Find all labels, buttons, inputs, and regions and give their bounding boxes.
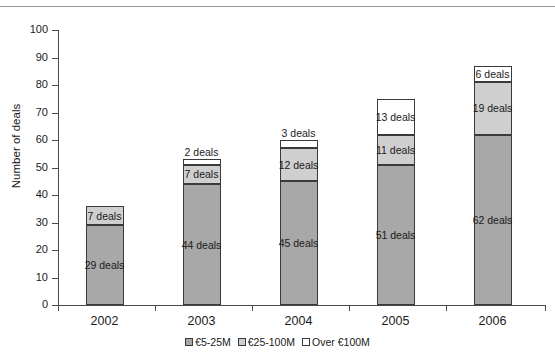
x-axis-tick [155, 305, 156, 311]
y-axis-tick-label: 10 [10, 272, 48, 283]
y-axis-tick-label: 90 [10, 52, 48, 63]
x-axis-tick [349, 305, 350, 311]
bar-segment-label: 29 deals [85, 259, 125, 271]
bar-segment-2005-series3[interactable]: 13 deals [377, 99, 415, 135]
x-axis-category-label-2004: 2004 [259, 314, 339, 328]
bar-segment-2003-series1[interactable]: 44 deals [183, 184, 221, 305]
y-axis-title: Number of deals [10, 86, 22, 206]
bar-segment-label: 12 deals [279, 159, 319, 171]
bar-segment-2004-series1[interactable]: 45 deals [280, 181, 318, 305]
legend-swatch-icon [238, 338, 246, 346]
x-axis-category-label-2002: 2002 [65, 314, 145, 328]
x-axis-tick [252, 305, 253, 311]
x-axis-tick [446, 305, 447, 311]
bar-segment-2004-series3[interactable]: 3 deals [280, 140, 318, 148]
chart-plot-area: 0102030405060708090100 Number of deals 2… [0, 0, 555, 360]
bar-segment-label: 3 deals [282, 127, 316, 139]
chart-legend: €5-25M€25-100MOver €100M [0, 336, 555, 348]
legend-swatch-icon [185, 338, 193, 346]
bar-segment-2006-series1[interactable]: 62 deals [474, 135, 512, 306]
bar-segment-label: 45 deals [279, 237, 319, 249]
y-axis-tick [52, 195, 59, 196]
bar-segment-label: 44 deals [182, 239, 222, 251]
bar-segment-label: 6 deals [476, 68, 510, 80]
bar-2005[interactable]: 51 deals11 deals13 deals [377, 0, 415, 305]
x-axis-category-label-2003: 2003 [162, 314, 242, 328]
bar-segment-2003-series2[interactable]: 7 deals [183, 165, 221, 184]
legend-item-1[interactable]: €5-25M [185, 336, 231, 348]
legend-item-3[interactable]: Over €100M [302, 336, 370, 348]
y-axis-tick [52, 250, 59, 251]
bar-segment-2004-series2[interactable]: 12 deals [280, 148, 318, 181]
x-axis-tick [58, 305, 59, 311]
chart-screenshot: 0102030405060708090100 Number of deals 2… [0, 0, 555, 360]
y-axis-tick-label: 20 [10, 244, 48, 255]
y-axis-tick [52, 113, 59, 114]
bar-segment-2005-series1[interactable]: 51 deals [377, 165, 415, 305]
bar-2006[interactable]: 62 deals19 deals6 deals [474, 0, 512, 305]
legend-label: Over €100M [312, 336, 370, 348]
bar-segment-2002-series1[interactable]: 29 deals [86, 225, 124, 305]
bar-segment-label: 2 deals [185, 146, 219, 158]
y-axis-tick-label: 100 [10, 24, 48, 35]
legend-item-2[interactable]: €25-100M [238, 336, 295, 348]
bar-segment-label: 19 deals [473, 102, 513, 114]
bar-segment-label: 11 deals [376, 144, 415, 156]
x-axis-category-label-2005: 2005 [356, 314, 436, 328]
bar-segment-2006-series2[interactable]: 19 deals [474, 82, 512, 134]
y-axis-tick-label: 30 [10, 217, 48, 228]
bar-segment-2005-series2[interactable]: 11 deals [377, 135, 415, 165]
bar-segment-label: 51 deals [376, 229, 416, 241]
legend-label: €25-100M [248, 336, 295, 348]
x-axis-tick [545, 305, 546, 311]
y-axis-tick [52, 58, 59, 59]
x-axis-category-label-2006: 2006 [453, 314, 533, 328]
bar-segment-label: 62 deals [473, 214, 513, 226]
y-axis-tick [52, 278, 59, 279]
y-axis-tick-label: 0 [10, 299, 48, 310]
bar-segment-label: 7 deals [185, 168, 219, 180]
bar-segment-2006-series3[interactable]: 6 deals [474, 66, 512, 83]
x-axis-line [58, 305, 545, 306]
y-axis-tick [52, 223, 59, 224]
y-axis-tick [52, 140, 59, 141]
y-axis-tick [52, 168, 59, 169]
bar-2004[interactable]: 45 deals12 deals3 deals [280, 0, 318, 305]
y-axis-tick [52, 30, 59, 31]
bar-segment-2002-series2[interactable]: 7 deals [86, 206, 124, 225]
legend-swatch-icon [302, 338, 310, 346]
bar-2002[interactable]: 29 deals7 deals [86, 0, 124, 305]
legend-label: €5-25M [195, 336, 231, 348]
bar-2003[interactable]: 44 deals7 deals2 deals [183, 0, 221, 305]
bar-segment-2003-series3[interactable]: 2 deals [183, 159, 221, 165]
bar-segment-label: 13 deals [376, 111, 416, 123]
y-axis-tick [52, 85, 59, 86]
bar-segment-label: 7 deals [88, 210, 122, 222]
